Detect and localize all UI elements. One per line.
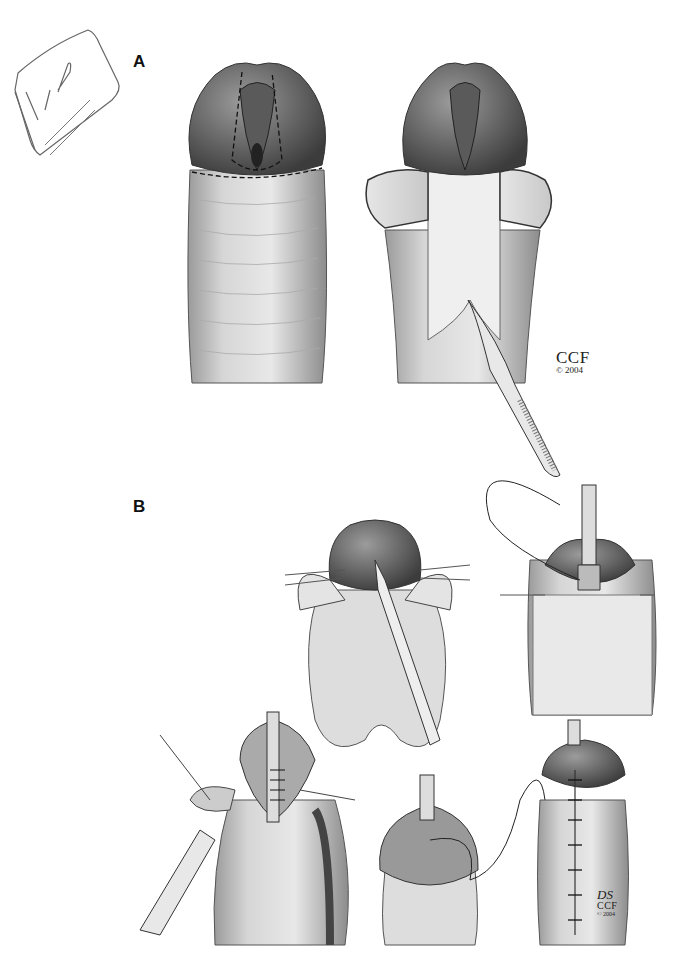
credit-copyright: © 2004 [597,911,617,917]
panel-b-step3 [140,712,355,945]
credit-b: DS CCF © 2004 [597,888,617,917]
panel-b-step4 [380,775,545,945]
credit-org: CCF [597,901,617,911]
panel-b-illustration [0,0,688,969]
panel-b-step2 [486,481,656,715]
panel-b-step1 [285,520,470,747]
